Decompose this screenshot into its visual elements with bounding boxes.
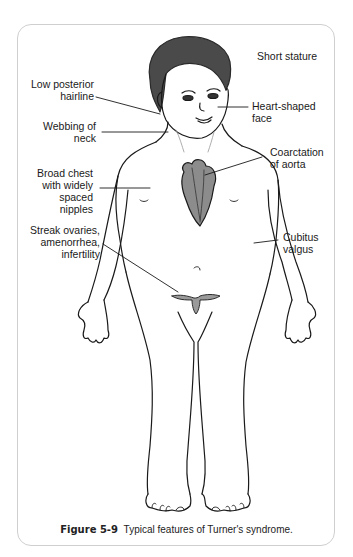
reproductive-organs <box>172 295 220 315</box>
left-nipple <box>140 200 148 202</box>
heart <box>182 160 216 226</box>
label-heart-shaped-face: Heart-shaped face <box>252 100 316 124</box>
head <box>162 74 229 138</box>
label-coarctation-of-aorta: Coarctation of aorta <box>270 146 324 170</box>
right-hand <box>285 300 315 343</box>
label-broad-chest: Broad chest with widely spaced nipples <box>20 167 93 215</box>
navel <box>194 267 200 270</box>
leader-cubitus-valgus <box>254 240 278 243</box>
leader-streak-ovaries <box>103 244 178 292</box>
label-cubitus-valgus: Cubitus valgus <box>283 231 319 255</box>
figure-caption: Figure 5-9 Typical features of Turner's … <box>0 524 353 535</box>
figure-caption-text: Typical features of Turner's syndrome. <box>124 524 293 535</box>
right-nipple <box>230 200 238 202</box>
label-low-posterior-hairline: Low posterior hairline <box>28 78 94 102</box>
label-webbing-of-neck: Webbing of neck <box>28 120 96 144</box>
left-hand <box>78 300 108 343</box>
left-eye <box>183 96 193 101</box>
right-eye <box>208 94 218 99</box>
label-short-stature: Short stature <box>257 50 317 62</box>
crotch-left <box>178 312 194 494</box>
left-leg-outer <box>126 272 152 494</box>
figure-number: Figure 5-9 <box>60 524 118 535</box>
leader-low-posterior-hairline <box>96 97 160 114</box>
label-streak-ovaries: Streak ovaries, amenorrhea, infertility <box>18 224 100 260</box>
crotch-right <box>198 312 212 494</box>
left-shoulder-torso <box>116 142 156 272</box>
right-foot <box>202 494 250 511</box>
right-leg-outer <box>244 274 270 494</box>
leader-coarctation-of-aorta <box>205 157 262 175</box>
